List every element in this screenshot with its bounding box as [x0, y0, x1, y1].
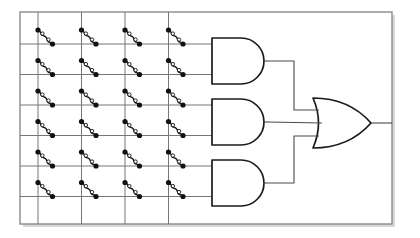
- memristor-node-open: [47, 68, 50, 71]
- memristor-node-open: [177, 190, 180, 193]
- memristor-terminal-bottom: [93, 41, 98, 46]
- memristor-node-open: [41, 32, 44, 35]
- memristor-terminal-bottom: [93, 133, 98, 138]
- memristor-terminal-top: [122, 180, 127, 185]
- memristor-terminal-bottom: [93, 72, 98, 77]
- memristor-terminal-top: [166, 58, 171, 63]
- memristor-node-open: [171, 32, 174, 35]
- memristor-node-open: [47, 160, 50, 163]
- figure-canvas: [0, 0, 420, 238]
- memristor-terminal-top: [166, 88, 171, 93]
- memristor-node-open: [134, 38, 137, 41]
- memristor-terminal-bottom: [50, 72, 55, 77]
- memristor-terminal-bottom: [137, 163, 142, 168]
- memristor-terminal-top: [79, 27, 84, 32]
- memristor-terminal-top: [122, 88, 127, 93]
- memristor-node-open: [171, 154, 174, 157]
- memristor-terminal-bottom: [137, 133, 142, 138]
- memristor-node-open: [90, 190, 93, 193]
- memristor-terminal-top: [35, 58, 40, 63]
- memristor-node-open: [177, 38, 180, 41]
- memristor-terminal-bottom: [50, 133, 55, 138]
- memristor-terminal-top: [166, 119, 171, 124]
- memristor-terminal-top: [122, 58, 127, 63]
- memristor-node-open: [171, 184, 174, 187]
- memristor-terminal-top: [122, 149, 127, 154]
- memristor-terminal-bottom: [180, 194, 185, 199]
- memristor-terminal-bottom: [137, 41, 142, 46]
- and-gate-body: [212, 38, 264, 84]
- memristor-node-open: [177, 99, 180, 102]
- memristor-terminal-bottom: [93, 102, 98, 107]
- memristor-node-open: [90, 38, 93, 41]
- memristor-node-open: [171, 62, 174, 65]
- memristor-terminal-top: [35, 119, 40, 124]
- memristor-node-open: [90, 160, 93, 163]
- memristor-node-open: [128, 154, 131, 157]
- memristor-terminal-bottom: [180, 133, 185, 138]
- memristor-terminal-top: [79, 180, 84, 185]
- memristor-node-open: [84, 32, 87, 35]
- memristor-node-open: [41, 154, 44, 157]
- memristor-node-open: [134, 99, 137, 102]
- memristor-node-open: [90, 68, 93, 71]
- memristor-node-open: [134, 68, 137, 71]
- memristor-terminal-top: [79, 58, 84, 63]
- memristor-node-open: [134, 190, 137, 193]
- memristor-terminal-top: [35, 149, 40, 154]
- memristor-node-open: [90, 99, 93, 102]
- memristor-node-open: [84, 93, 87, 96]
- memristor-node-open: [134, 160, 137, 163]
- memristor-node-open: [41, 123, 44, 126]
- memristor-terminal-top: [35, 180, 40, 185]
- memristor-terminal-top: [122, 27, 127, 32]
- memristor-node-open: [177, 68, 180, 71]
- memristor-node-open: [177, 160, 180, 163]
- memristor-node-open: [47, 129, 50, 132]
- memristor-terminal-bottom: [93, 194, 98, 199]
- memristor-node-open: [84, 123, 87, 126]
- memristor-node-open: [84, 154, 87, 157]
- memristor-node-open: [90, 129, 93, 132]
- memristor-node-open: [128, 32, 131, 35]
- and-gate-body: [212, 160, 264, 206]
- memristor-node-open: [41, 62, 44, 65]
- circuit-diagram: [0, 0, 420, 238]
- memristor-terminal-bottom: [50, 194, 55, 199]
- memristor-node-open: [128, 123, 131, 126]
- memristor-node-open: [177, 129, 180, 132]
- memristor-node-open: [84, 62, 87, 65]
- memristor-node-open: [128, 93, 131, 96]
- memristor-node-open: [41, 184, 44, 187]
- memristor-node-open: [134, 129, 137, 132]
- memristor-terminal-bottom: [180, 163, 185, 168]
- memristor-terminal-bottom: [50, 163, 55, 168]
- memristor-terminal-top: [122, 119, 127, 124]
- memristor-terminal-bottom: [180, 102, 185, 107]
- memristor-node-open: [47, 190, 50, 193]
- memristor-terminal-bottom: [180, 72, 185, 77]
- memristor-terminal-bottom: [50, 41, 55, 46]
- memristor-node-open: [171, 93, 174, 96]
- memristor-node-open: [84, 184, 87, 187]
- memristor-terminal-top: [79, 88, 84, 93]
- and-gate-body: [212, 99, 264, 145]
- memristor-node-open: [47, 99, 50, 102]
- memristor-node-open: [171, 123, 174, 126]
- memristor-terminal-bottom: [137, 102, 142, 107]
- memristor-terminal-top: [79, 119, 84, 124]
- memristor-terminal-top: [166, 180, 171, 185]
- memristor-terminal-top: [35, 27, 40, 32]
- memristor-node-open: [128, 62, 131, 65]
- memristor-terminal-bottom: [137, 72, 142, 77]
- memristor-node-open: [128, 184, 131, 187]
- memristor-terminal-bottom: [93, 163, 98, 168]
- memristor-terminal-top: [166, 149, 171, 154]
- memristor-terminal-bottom: [50, 102, 55, 107]
- memristor-terminal-bottom: [180, 41, 185, 46]
- memristor-terminal-top: [79, 149, 84, 154]
- memristor-node-open: [41, 93, 44, 96]
- memristor-terminal-top: [35, 88, 40, 93]
- memristor-terminal-top: [166, 27, 171, 32]
- memristor-node-open: [47, 38, 50, 41]
